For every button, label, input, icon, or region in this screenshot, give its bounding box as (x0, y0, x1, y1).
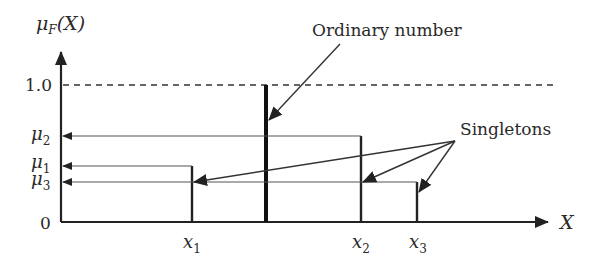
x-point-x1: x1 (183, 231, 201, 256)
fuzzy-singletons-diagram: μF(X) 1.0 0 μ2 μ1 μ3 x1 x2 x3 X Ordinary… (0, 0, 594, 265)
x-point-x2: x2 (352, 231, 370, 256)
singletons-pointer-x1 (194, 141, 455, 182)
y-tick-zero: 0 (40, 213, 51, 233)
ordinary-number-pointer (269, 44, 340, 120)
y-tick-one: 1.0 (25, 75, 52, 95)
x-axis-label: X (558, 211, 575, 233)
x-point-x3: x3 (409, 231, 427, 256)
y-axis-title: μF(X) (36, 12, 85, 37)
ordinary-number-label: Ordinary number (312, 20, 463, 40)
singletons-label: Singletons (460, 119, 551, 139)
y-level-mu2: μ2 (31, 123, 50, 148)
